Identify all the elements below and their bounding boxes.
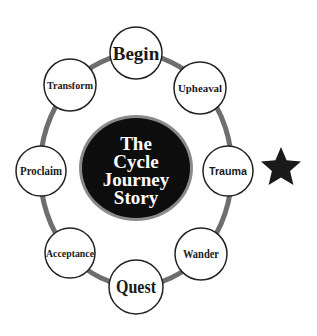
node-label-acceptance: Acceptance bbox=[46, 248, 95, 259]
center-hub: The Cycle Journey Story bbox=[79, 115, 193, 221]
node-label-trauma: Trauma bbox=[209, 165, 248, 177]
node-upheaval: Upheaval bbox=[174, 62, 226, 114]
node-trauma: Trauma bbox=[203, 146, 253, 196]
star-icon bbox=[261, 147, 301, 185]
center-title-line-4: Story bbox=[114, 187, 159, 208]
node-label-begin: Begin bbox=[113, 43, 160, 64]
node-label-upheaval: Upheaval bbox=[178, 82, 222, 94]
node-quest: Quest bbox=[109, 260, 163, 314]
node-label-wander: Wander bbox=[183, 247, 220, 261]
node-label-proclaim: Proclaim bbox=[20, 164, 62, 178]
node-wander: Wander bbox=[175, 228, 227, 280]
node-begin: Begin bbox=[110, 27, 162, 79]
node-label-quest: Quest bbox=[116, 276, 157, 297]
node-proclaim: Proclaim bbox=[16, 146, 66, 196]
cycle-journey-diagram: The Cycle Journey Story Begin Upheaval T… bbox=[0, 0, 317, 336]
node-label-transform: Transform bbox=[47, 79, 93, 91]
node-transform: Transform bbox=[44, 59, 96, 111]
diagram-svg: The Cycle Journey Story Begin Upheaval T… bbox=[0, 0, 317, 336]
node-acceptance: Acceptance bbox=[45, 228, 95, 278]
